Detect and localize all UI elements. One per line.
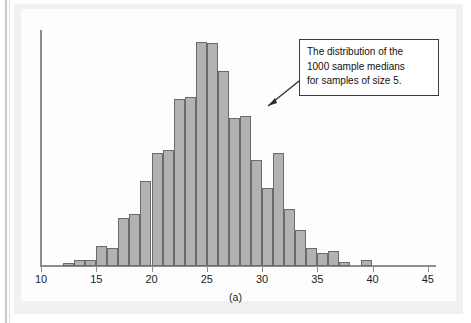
callout-line-3: for samples of size 5. bbox=[307, 74, 431, 89]
figure-caption: (a) bbox=[0, 291, 471, 303]
histogram-bar bbox=[118, 218, 129, 266]
histogram-bar bbox=[85, 260, 96, 266]
x-axis-tick-label: 10 bbox=[26, 273, 56, 285]
x-axis-tick bbox=[96, 267, 97, 272]
histogram-bar bbox=[174, 99, 185, 266]
histogram-bar bbox=[295, 230, 306, 266]
x-axis-tick bbox=[262, 267, 263, 272]
x-axis-tick bbox=[152, 267, 153, 272]
histogram-bar bbox=[63, 263, 74, 266]
histogram-bar bbox=[339, 262, 350, 266]
histogram-bar bbox=[262, 188, 273, 266]
x-axis-tick bbox=[428, 267, 429, 272]
histogram-bar bbox=[218, 71, 229, 266]
distribution-callout: The distribution of the 1000 sample medi… bbox=[299, 39, 439, 96]
histogram-bar bbox=[361, 260, 372, 266]
histogram-bar bbox=[240, 116, 251, 266]
x-axis-tick-label: 20 bbox=[137, 273, 167, 285]
x-axis-tick-label: 15 bbox=[81, 273, 111, 285]
histogram-bar bbox=[306, 248, 317, 266]
x-axis-tick-label: 45 bbox=[413, 273, 443, 285]
callout-line-1: The distribution of the bbox=[307, 45, 431, 60]
x-axis-tick bbox=[373, 267, 374, 272]
histogram-bar bbox=[317, 253, 328, 266]
histogram-bar bbox=[185, 97, 196, 266]
figure-root: 1015202530354045 (a) The distribution of… bbox=[0, 0, 471, 323]
histogram-bar bbox=[107, 248, 118, 266]
histogram-bar bbox=[229, 118, 240, 266]
callout-line-2: 1000 sample medians bbox=[307, 60, 431, 75]
histogram-bar bbox=[196, 42, 207, 266]
histogram-bar bbox=[251, 160, 262, 266]
histogram-bar bbox=[284, 209, 295, 266]
x-axis-tick-label: 35 bbox=[302, 273, 332, 285]
histogram-bar bbox=[74, 260, 85, 266]
x-axis-tick-label: 30 bbox=[247, 273, 277, 285]
x-axis-tick-label: 40 bbox=[358, 273, 388, 285]
histogram-bar bbox=[152, 153, 163, 266]
histogram-bar bbox=[328, 251, 339, 266]
histogram-bar bbox=[96, 246, 107, 266]
x-axis-tick-label: 25 bbox=[192, 273, 222, 285]
x-axis-tick bbox=[317, 267, 318, 272]
histogram-bar bbox=[273, 153, 284, 266]
histogram-bar bbox=[163, 150, 174, 266]
x-axis-tick bbox=[41, 267, 42, 272]
histogram-bar bbox=[140, 181, 151, 266]
histogram-bar bbox=[129, 214, 140, 266]
histogram-bar bbox=[207, 43, 218, 266]
x-axis-tick bbox=[207, 267, 208, 272]
